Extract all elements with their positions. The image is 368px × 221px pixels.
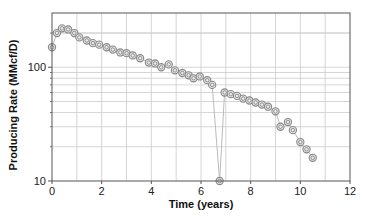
data-point [303,146,310,153]
series-polyline [52,28,313,181]
data-line [52,28,313,181]
data-markers [48,25,316,185]
x-tick-label: 10 [294,185,306,197]
x-tick-label: 4 [148,185,154,197]
data-point [297,138,304,145]
y-axis-ticks: 10100 [28,33,52,187]
data-point [129,52,136,59]
data-point [158,64,165,71]
data-point [171,67,178,74]
x-tick-label: 12 [344,185,356,197]
x-axis-title: Time (years) [169,198,234,210]
grid-lines [52,13,350,181]
data-point [272,108,279,115]
data-point [289,127,296,134]
data-point [165,61,172,68]
data-point [96,41,103,48]
data-point [284,118,291,125]
data-point [264,103,271,110]
y-tick-label: 10 [34,175,46,187]
data-point [109,46,116,53]
y-tick-label: 100 [28,61,46,73]
data-point [196,73,203,80]
data-point [277,123,284,130]
x-tick-label: 2 [99,185,105,197]
data-point [209,81,216,88]
data-point [137,55,144,62]
x-axis-ticks: 024681012 [49,181,356,197]
data-point [309,154,316,161]
data-point [76,34,83,41]
producing-rate-chart: 024681012 10100 Time (years) Producing R… [0,0,368,221]
x-tick-label: 6 [198,185,204,197]
x-tick-label: 8 [248,185,254,197]
y-axis-title: Producing Rate (MMcf/D) [7,39,19,170]
x-tick-label: 0 [49,185,55,197]
